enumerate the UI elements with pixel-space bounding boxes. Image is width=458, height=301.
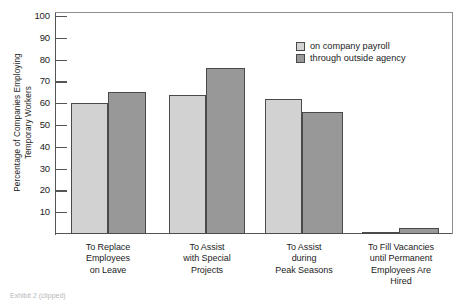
legend: on company payroll through outside agenc… [296,40,406,64]
figure-caption: Exhibit 2 (clipped) [10,292,66,301]
bar-g3-through-outside-agency [302,112,343,234]
x-axis-label-to-replace-employees-on-leave: To Replace Employees on Leave [58,242,158,276]
y-tick-50 [55,125,67,126]
bar-g1-through-outside-agency [108,92,146,234]
legend-label-through-outside-agency: through outside agency [310,52,406,64]
bar-g1-on-company-payroll [71,103,108,234]
legend-item-through-outside-agency: through outside agency [296,52,406,64]
bar-g4-on-company-payroll [362,232,399,234]
y-tick-label-70: 70 [16,76,50,86]
y-tick-label-60: 60 [16,98,50,108]
y-tick-100 [55,16,67,17]
x-axis-label-to-assist-with-special-projects: To Assist with Special Projects [157,242,257,276]
legend-item-on-company-payroll: on company payroll [296,40,406,52]
y-tick-60 [55,103,67,104]
y-tick-10 [55,212,67,213]
bar-g3-on-company-payroll [265,99,302,234]
bar-g4-through-outside-agency [399,228,439,235]
bar-chart: Percentage of Companies Employing Tempor… [0,0,458,301]
y-axis-line [55,12,56,235]
y-tick-label-80: 80 [16,55,50,65]
plot-right-border [452,12,453,234]
bar-g2-on-company-payroll [169,95,206,235]
y-tick-label-50: 50 [16,120,50,130]
bar-g2-through-outside-agency [206,68,245,234]
y-tick-label-100: 100 [16,11,50,21]
y-tick-label-20: 20 [16,185,50,195]
y-tick-label-90: 90 [16,33,50,43]
y-tick-40 [55,147,67,148]
legend-label-on-company-payroll: on company payroll [310,40,390,52]
legend-swatch-icon-dark [296,54,305,63]
y-tick-label-30: 30 [16,164,50,174]
y-tick-30 [55,169,67,170]
plot-top-border [55,12,453,13]
x-axis-label-to-assist-during-peak-seasons: To Assist during Peak Seasons [253,242,355,276]
y-tick-label-40: 40 [16,142,50,152]
y-tick-20 [55,190,67,191]
y-tick-80 [55,60,67,61]
x-axis-label-to-fill-vacancies-until-permanent-employees-are-hired: To Fill Vacancies until Permanent Employ… [345,242,457,288]
y-tick-90 [55,38,67,39]
legend-swatch-icon-light [296,42,305,51]
y-tick-70 [55,81,67,82]
y-tick-label-10: 10 [16,207,50,217]
